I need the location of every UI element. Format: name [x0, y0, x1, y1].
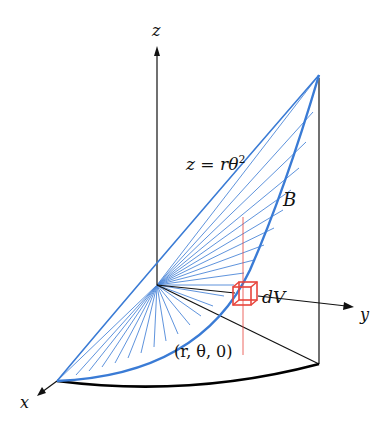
point-label: (r, θ, 0) [174, 342, 233, 361]
surface-equation-label: z = rθ2 [185, 153, 245, 174]
x-axis-label: x [20, 393, 29, 412]
z-axis [154, 46, 160, 285]
region-label-B: B [282, 189, 296, 210]
base-arc [57, 364, 319, 387]
y-axis-label: y [359, 305, 370, 324]
volume-element-label: dV [262, 287, 287, 307]
x-axis [37, 381, 57, 396]
z-axis-label: z [151, 21, 161, 40]
diagram-canvas: z y x z = rθ2 B dV (r, θ, 0) [0, 0, 391, 422]
surface-edge-upper [57, 75, 319, 381]
